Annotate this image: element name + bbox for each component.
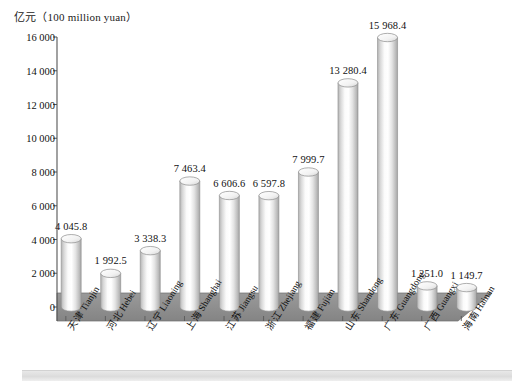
bar-cylinder	[180, 181, 200, 311]
bar-top-cap	[180, 177, 200, 185]
bar-top-cap	[338, 79, 358, 87]
y-axis-tick-label: 10 000	[5, 133, 55, 144]
y-axis-tick-label: 12 000	[5, 99, 55, 110]
bar-top-cap	[61, 235, 81, 243]
bar-cylinder	[259, 196, 279, 312]
bar-top-cap	[140, 246, 160, 254]
y-axis-tick-label: 2 000	[5, 268, 55, 279]
bar-cylinder	[298, 172, 318, 311]
y-axis-tick-label: 0	[5, 302, 55, 313]
y-axis-tick-labels: 02 0004 0006 0008 00010 00012 00014 0001…	[0, 0, 55, 383]
y-axis-tick-label: 14 000	[5, 65, 55, 76]
plot-area: 02 0004 0006 0008 00010 00012 00014 0001…	[0, 0, 527, 383]
y-axis-tick-label: 16 000	[5, 32, 55, 43]
bar-top-cap	[219, 191, 239, 199]
bar-top-cap	[378, 33, 398, 41]
bar-cylinder	[219, 196, 239, 312]
y-axis-tick-label: 8 000	[5, 167, 55, 178]
bar-top-cap	[298, 168, 318, 176]
bar-top-cap	[259, 191, 279, 199]
bar-cylinder	[338, 83, 358, 311]
y-axis-tick-label: 6 000	[5, 200, 55, 211]
chart-root: 亿元（100 million yuan）	[0, 0, 527, 383]
y-axis-tick-label: 4 000	[5, 234, 55, 245]
bottom-strip	[22, 370, 512, 381]
bar-top-cap	[101, 269, 121, 277]
bar-cylinder	[378, 38, 398, 312]
